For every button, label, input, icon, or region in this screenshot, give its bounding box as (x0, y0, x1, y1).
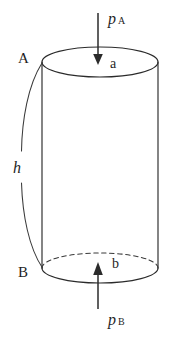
height-arc-upper (22, 63, 43, 151)
top-pressure-symbol: p (107, 10, 116, 28)
pressure-arrow-top (93, 13, 103, 65)
top-pressure-label: p A (107, 10, 126, 28)
pressure-arrow-top-head (93, 54, 103, 65)
height-arc-lower (22, 183, 43, 268)
bottom-face-label: b (112, 256, 119, 271)
cylinder-figure: A h B a b p A p B (0, 0, 170, 341)
pressure-arrow-bottom (93, 262, 103, 309)
pressure-arrow-bottom-head (93, 262, 103, 275)
point-label-a-top: A (18, 50, 29, 66)
height-label: h (13, 159, 21, 176)
cylinder-bottom-back-arc-dashed (42, 253, 158, 268)
bottom-pressure-label: p B (107, 311, 125, 329)
point-label-b-bottom: B (18, 264, 28, 280)
top-pressure-subscript: A (118, 15, 126, 26)
physics-diagram-canvas: A h B a b p A p B (0, 0, 170, 341)
bottom-pressure-symbol: p (107, 311, 116, 329)
bottom-pressure-subscript: B (118, 316, 125, 327)
cylinder-top-face-ellipse (42, 47, 158, 77)
top-face-label: a (110, 56, 117, 71)
